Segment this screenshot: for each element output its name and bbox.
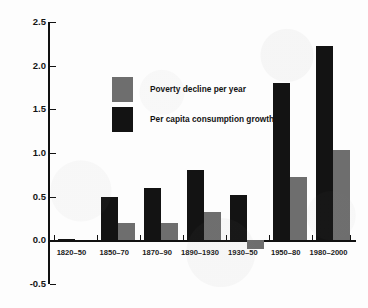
bar-chart: 1820–501850–701870–901890–19301930–50195… — [0, 0, 368, 308]
x-axis-tick-label: 1850–70 — [93, 249, 136, 257]
legend-swatch-consumption-icon — [112, 107, 133, 132]
plot-area: 1820–501850–701870–901890–19301930–50195… — [48, 22, 356, 284]
bar — [58, 239, 75, 241]
bar — [101, 197, 118, 241]
x-axis-tick — [350, 235, 351, 240]
bar — [187, 170, 204, 240]
x-axis-tick-label: 1950–80 — [264, 249, 307, 257]
y-axis-tick — [50, 109, 56, 110]
bar — [273, 83, 290, 240]
x-axis-zero-line — [48, 240, 356, 242]
y-axis-tick-label: -0.5 — [6, 279, 46, 289]
x-axis-tick-label: 1930–50 — [221, 249, 264, 257]
y-axis-tick-label: 0.5 — [6, 192, 46, 202]
bar — [333, 150, 350, 240]
y-axis-tick-label: 0.0 — [6, 235, 46, 245]
bar — [230, 195, 247, 240]
x-axis-tick-label: 1980–2000 — [307, 249, 350, 257]
y-axis-tick-label: 2.0 — [6, 61, 46, 71]
x-axis-tick-label: 1870–90 — [136, 249, 179, 257]
bar — [144, 188, 161, 240]
y-axis-tick-label: 1.5 — [6, 104, 46, 114]
y-axis-tick-label: 1.0 — [6, 148, 46, 158]
legend-label-poverty: Poverty decline per year — [150, 84, 246, 94]
x-axis-tick — [183, 235, 184, 240]
bar — [290, 177, 307, 240]
x-axis-tick-label: 1890–1930 — [179, 249, 222, 257]
y-axis-tick — [50, 197, 56, 198]
x-axis-tick-label: 1820–50 — [50, 249, 93, 257]
x-axis-tick — [140, 235, 141, 240]
legend-item-consumption: Per capita consumption growth — [112, 104, 274, 134]
chart-legend: Poverty decline per year Per capita cons… — [112, 74, 274, 134]
x-axis-tick — [226, 235, 227, 240]
x-axis-tick — [312, 235, 313, 240]
y-axis-tick — [50, 284, 56, 285]
legend-label-consumption: Per capita consumption growth — [150, 114, 274, 124]
x-axis-tick — [54, 235, 55, 240]
bar — [204, 212, 221, 240]
y-axis-tick — [50, 66, 56, 67]
y-axis-tick — [50, 22, 56, 23]
legend-item-poverty: Poverty decline per year — [112, 74, 274, 104]
y-axis-tick-label: 2.5 — [6, 17, 46, 27]
x-axis-tick — [269, 235, 270, 240]
bar — [161, 223, 178, 240]
x-axis-tick — [97, 235, 98, 240]
y-axis-tick — [50, 153, 56, 154]
bar — [118, 223, 135, 240]
bar — [316, 46, 333, 240]
legend-swatch-poverty-icon — [112, 77, 133, 102]
